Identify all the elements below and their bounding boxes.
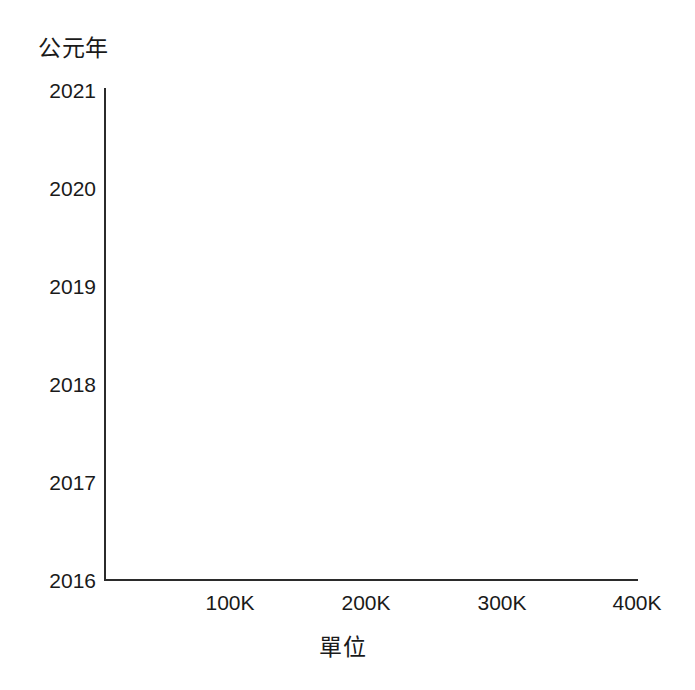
- x-tick-label-200k: 200K: [341, 592, 390, 613]
- x-tick-label-100k: 100K: [205, 592, 254, 613]
- x-tick-label-300k: 300K: [477, 592, 526, 613]
- x-axis-tick-labels: 100K 200K 300K 400K: [0, 0, 695, 690]
- x-axis-title: 單位: [0, 632, 695, 662]
- chart-figure: 公元年 2021 2020 2019 2018 2017 2016 100K 2…: [0, 0, 695, 690]
- x-tick-label-400k: 400K: [612, 592, 661, 613]
